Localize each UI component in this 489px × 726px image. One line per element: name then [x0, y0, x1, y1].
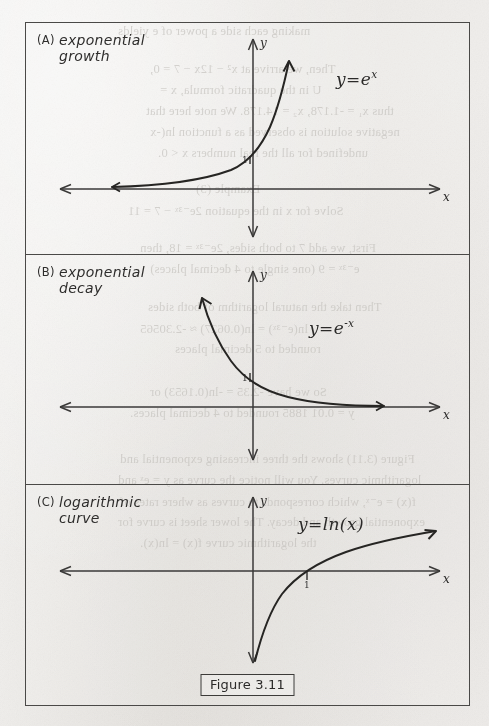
panel-b-curve-exponential-decay [202, 298, 384, 406]
panel-b-plot: 1 y x [26, 255, 471, 485]
panel-a-plot: 1 y x [26, 23, 471, 255]
panel-c-curve-logarithmic [255, 531, 436, 661]
panel-a-curve-arrow-head [284, 61, 295, 72]
panel-b-exponential-decay: (B) exponential decay y=e-x 1 y x [26, 255, 469, 485]
figure-frame: (A) exponential growth y=ex 1 y x [25, 22, 470, 706]
panel-b-x-axis-name: x [443, 408, 450, 422]
figure-caption: Figure 3.11 [200, 674, 295, 696]
panel-c-curve-arrow-head [425, 530, 437, 539]
panel-c-logarithmic-curve: (C) logarithmic curve y=ln(x) 1 y x [26, 485, 469, 705]
panel-c-plot: 1 y x [26, 485, 471, 705]
panel-a-y-axis-name: y [259, 36, 267, 50]
panel-c-tick-label: 1 [304, 580, 310, 590]
panel-c-y-axis-name: y [259, 494, 267, 508]
panel-a-exponential-growth: (A) exponential growth y=ex 1 y x [26, 23, 469, 255]
panel-a-curve-exponential-growth [112, 61, 289, 187]
panel-b-y-axis-name: y [259, 268, 267, 282]
panel-c-x-axis-name: x [443, 572, 450, 586]
panel-a-x-axis-name: x [443, 190, 450, 204]
